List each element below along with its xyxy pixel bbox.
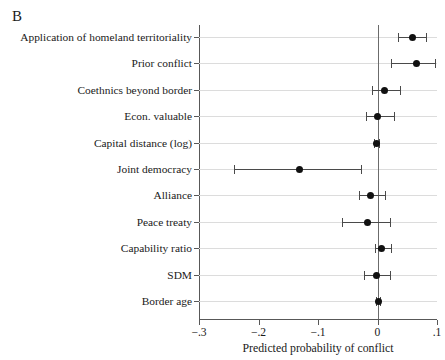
estimate-point: [413, 60, 420, 67]
confidence-interval-cap: [364, 271, 365, 280]
coefficient-plot-figure: B Application of homeland territoriality…: [0, 0, 445, 360]
gridline: [199, 195, 437, 196]
confidence-interval-cap: [390, 271, 391, 280]
confidence-interval-cap: [234, 165, 235, 174]
gridline: [199, 301, 437, 302]
y-axis-tick: [194, 275, 199, 276]
confidence-interval-cap: [342, 218, 343, 227]
category-label: SDM: [0, 269, 192, 281]
x-axis-tick: [437, 320, 438, 325]
category-label: Application of homeland territoriality: [0, 31, 192, 43]
confidence-interval-cap: [391, 59, 392, 68]
y-axis-tick: [194, 195, 199, 196]
x-axis-tick-label: 0: [358, 326, 398, 339]
estimate-point: [375, 298, 382, 305]
gridline: [199, 222, 437, 223]
y-axis-tick: [194, 143, 199, 144]
x-axis-tick-label: .1: [417, 326, 445, 339]
category-label: Border age: [0, 295, 192, 307]
y-axis-tick: [194, 301, 199, 302]
confidence-interval-cap: [359, 191, 360, 200]
y-axis-tick: [194, 116, 199, 117]
y-axis-tick: [194, 63, 199, 64]
confidence-interval-cap: [400, 86, 401, 95]
confidence-interval-cap: [366, 112, 367, 121]
y-axis-tick: [194, 37, 199, 38]
plot-area: [199, 25, 437, 320]
confidence-interval-cap: [375, 244, 376, 253]
estimate-point: [373, 272, 380, 279]
x-axis-tick: [378, 320, 379, 325]
x-axis-title: Predicted probability of conflict: [199, 341, 437, 356]
estimate-point: [296, 166, 303, 173]
confidence-interval-cap: [435, 59, 436, 68]
confidence-interval-cap: [385, 191, 386, 200]
y-axis-tick: [194, 248, 199, 249]
category-label: Capital distance (log): [0, 137, 192, 149]
estimate-point: [373, 140, 380, 147]
x-axis-tick: [199, 320, 200, 325]
x-axis-tick-label: −.1: [298, 326, 338, 339]
x-axis-tick: [318, 320, 319, 325]
estimate-point: [364, 219, 371, 226]
confidence-interval-cap: [361, 165, 362, 174]
y-axis-tick: [194, 222, 199, 223]
gridline: [199, 143, 437, 144]
category-axis-labels: Application of homeland territorialityPr…: [0, 25, 194, 320]
x-axis-tick-label: −.2: [239, 326, 279, 339]
y-axis-line: [199, 25, 200, 320]
estimate-point: [381, 87, 388, 94]
category-label: Coethnics beyond border: [0, 84, 192, 96]
estimate-point: [378, 245, 385, 252]
category-label: Joint democracy: [0, 163, 192, 175]
gridline: [199, 116, 437, 117]
gridline: [199, 248, 437, 249]
category-label: Alliance: [0, 189, 192, 201]
y-axis-tick: [194, 90, 199, 91]
panel-letter: B: [12, 8, 22, 25]
category-label: Capability ratio: [0, 242, 192, 254]
y-axis-tick: [194, 169, 199, 170]
confidence-interval-cap: [426, 33, 427, 42]
x-axis-tick-label: −.3: [179, 326, 219, 339]
category-label: Econ. valuable: [0, 110, 192, 122]
estimate-point: [374, 113, 381, 120]
estimate-point: [409, 34, 416, 41]
confidence-interval-cap: [390, 218, 391, 227]
confidence-interval-cap: [391, 244, 392, 253]
estimate-point: [367, 192, 374, 199]
x-axis-tick: [259, 320, 260, 325]
confidence-interval-cap: [398, 33, 399, 42]
gridline: [199, 275, 437, 276]
category-label: Prior conflict: [0, 57, 192, 69]
confidence-interval-cap: [372, 86, 373, 95]
confidence-interval-cap: [394, 112, 395, 121]
category-label: Peace treaty: [0, 216, 192, 228]
gridline: [199, 90, 437, 91]
